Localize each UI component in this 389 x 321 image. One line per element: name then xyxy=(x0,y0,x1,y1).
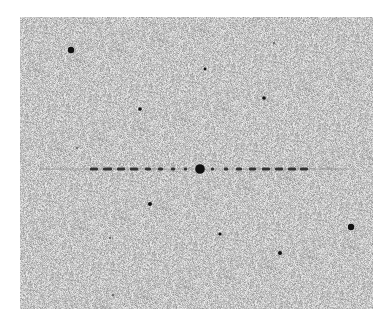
star xyxy=(262,96,266,100)
streak-dash xyxy=(236,168,242,171)
streak-dash xyxy=(300,168,308,171)
streak-dash xyxy=(117,168,125,171)
star xyxy=(76,147,78,149)
streak-dash xyxy=(145,168,151,171)
star xyxy=(68,47,74,53)
star xyxy=(138,107,142,111)
star xyxy=(218,232,221,235)
streak-dash xyxy=(262,168,270,171)
streak-dash xyxy=(103,168,112,171)
streak-dash xyxy=(249,168,256,171)
streak-dash xyxy=(184,168,187,171)
streak-dash xyxy=(211,168,214,171)
star xyxy=(348,224,354,230)
star xyxy=(273,42,275,44)
star xyxy=(278,251,282,255)
star xyxy=(148,202,152,206)
bright-star xyxy=(195,164,205,174)
star-field xyxy=(20,17,373,309)
star xyxy=(112,294,114,296)
star xyxy=(109,237,111,239)
streak-dash xyxy=(275,168,283,171)
streak-dash xyxy=(158,168,163,171)
streak-dash xyxy=(224,168,228,171)
streak-dash xyxy=(171,168,175,171)
streak-dash xyxy=(90,168,98,171)
streak-dash xyxy=(288,168,296,171)
streak-dash xyxy=(130,168,138,171)
star xyxy=(204,68,207,71)
image-frame xyxy=(20,17,373,309)
